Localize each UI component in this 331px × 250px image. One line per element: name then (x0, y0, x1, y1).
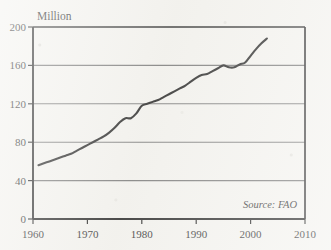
x-tick-labels: 1960 1970 1980 1990 2000 2010 (22, 228, 317, 240)
source-annotation: Source: FAO (243, 199, 297, 210)
x-tick-label-1970: 1970 (76, 228, 99, 240)
data-line-production (38, 39, 266, 166)
y-tick-label-160: 160 (10, 59, 27, 71)
x-tick-label-1960: 1960 (22, 228, 45, 240)
chart-page: Million 200 160 120 80 40 0 1960 1970 19… (0, 0, 331, 250)
plot-frame (33, 27, 305, 219)
line-chart: Million 200 160 120 80 40 0 1960 1970 19… (0, 0, 331, 250)
y-axis-title: Million (37, 10, 72, 22)
x-tick-label-2010: 2010 (294, 228, 317, 240)
gridlines (33, 65, 305, 180)
y-tick-labels: 200 160 120 80 40 0 (10, 21, 27, 225)
y-tick-label-0: 0 (21, 213, 27, 225)
y-tick-label-80: 80 (15, 136, 27, 148)
y-tick-label-120: 120 (10, 98, 27, 110)
x-tick-label-1980: 1980 (131, 228, 154, 240)
x-tick-label-1990: 1990 (185, 228, 208, 240)
y-tick-label-40: 40 (15, 175, 27, 187)
y-tick-label-200: 200 (10, 21, 27, 33)
x-tick-label-2000: 2000 (240, 228, 263, 240)
